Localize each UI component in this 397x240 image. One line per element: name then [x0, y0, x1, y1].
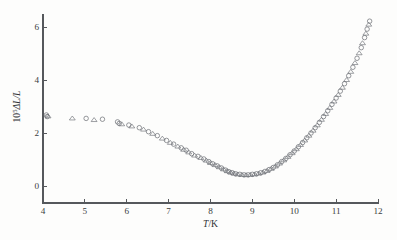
x-tick-label: 4 — [41, 206, 46, 216]
data-point-circle — [146, 129, 151, 134]
x-tick-label: 10 — [290, 206, 300, 216]
x-tick-label: 5 — [83, 206, 88, 216]
y-axis-title: 105ΔL/L — [11, 91, 22, 123]
data-point-circle — [100, 117, 105, 122]
data-point-triangle — [91, 118, 97, 122]
data-point-circle — [365, 27, 370, 32]
x-tick-label: 11 — [332, 206, 341, 216]
data-point-triangle — [356, 51, 362, 55]
x-tick-label: 9 — [250, 206, 255, 216]
axis-tick-labels-group: 4567891011120246 — [34, 22, 383, 216]
data-point-triangle — [348, 69, 354, 73]
x-tick-label: 12 — [373, 206, 383, 216]
data-point-triangle — [352, 61, 358, 65]
data-point-circle — [137, 125, 142, 130]
data-point-circle — [351, 65, 356, 70]
data-point-circle — [342, 81, 347, 86]
y-tick-label: 2 — [34, 128, 39, 138]
data-point-triangle — [192, 153, 198, 157]
data-point-triangle — [360, 41, 366, 45]
figure-root: 4567891011120246 T/K105ΔL/L — [0, 0, 397, 240]
series-circle — [44, 19, 372, 177]
scatter-plot: 4567891011120246 T/K105ΔL/L — [0, 0, 397, 240]
data-point-circle — [362, 35, 367, 40]
data-point-circle — [346, 74, 351, 79]
data-point-triangle — [198, 155, 204, 159]
y-tick-label: 4 — [34, 75, 39, 85]
y-tick-label: 0 — [34, 181, 39, 191]
data-markers-group — [44, 19, 372, 177]
axis-ticks-group — [43, 27, 378, 203]
series-triangle — [45, 22, 372, 176]
data-point-circle — [359, 45, 364, 50]
data-point-circle — [127, 123, 132, 128]
x-tick-label: 7 — [166, 206, 171, 216]
y-tick-label: 6 — [34, 22, 39, 32]
data-point-circle — [84, 116, 89, 121]
x-tick-label: 8 — [208, 206, 213, 216]
data-point-circle — [196, 154, 201, 159]
data-point-triangle — [69, 116, 75, 120]
x-tick-label: 6 — [124, 206, 129, 216]
x-axis-title: T/K — [203, 218, 218, 229]
data-point-triangle — [363, 31, 369, 35]
data-point-circle — [355, 56, 360, 61]
